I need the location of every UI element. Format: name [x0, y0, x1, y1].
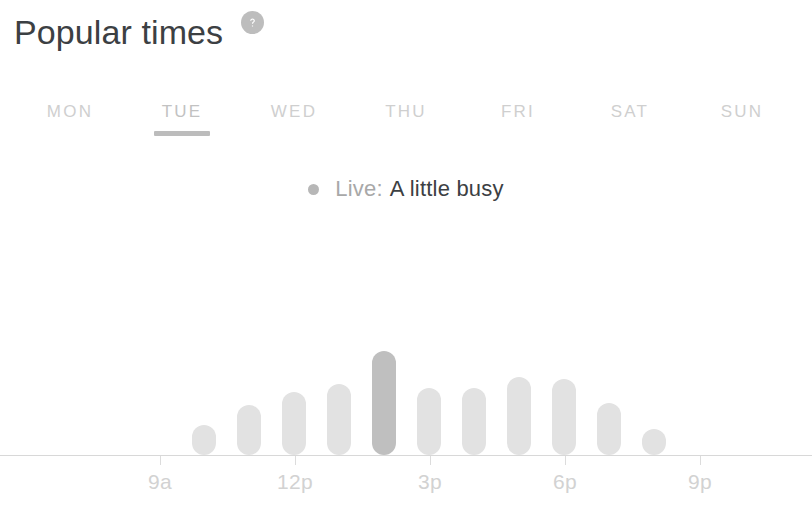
chart-bar[interactable] [372, 351, 396, 455]
axis-tick-label: 12p [277, 470, 313, 494]
chart-bar[interactable] [327, 384, 351, 455]
chart-bar[interactable] [282, 392, 306, 455]
axis-tick-label: 3p [418, 470, 442, 494]
axis-tick [565, 456, 566, 465]
chart-bar[interactable] [237, 405, 261, 455]
chart-bar[interactable] [462, 388, 486, 455]
chart-bar[interactable] [552, 379, 576, 455]
chart-bar[interactable] [597, 403, 621, 455]
chart-bar[interactable] [507, 377, 531, 455]
axis-tick-label: 9p [688, 470, 712, 494]
axis-tick [700, 456, 701, 465]
axis-tick-label: 9a [148, 470, 172, 494]
chart-bar[interactable] [642, 429, 666, 455]
axis-tick [295, 456, 296, 465]
axis-tick [430, 456, 431, 465]
axis-tick-label: 6p [553, 470, 577, 494]
chart-axis-line [0, 455, 812, 456]
axis-tick [160, 456, 161, 465]
popular-times-chart: 9a12p3p6p9p [0, 0, 812, 507]
chart-bar[interactable] [192, 425, 216, 455]
chart-bar[interactable] [417, 388, 441, 455]
